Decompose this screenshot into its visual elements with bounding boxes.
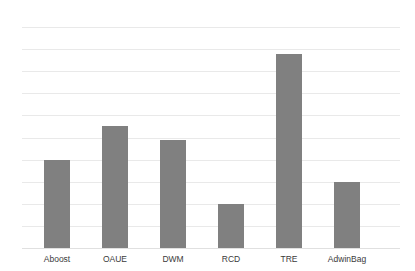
bar-slot	[318, 27, 376, 248]
bar[interactable]	[102, 126, 128, 248]
bar-slot	[144, 27, 202, 248]
bar[interactable]	[44, 160, 70, 248]
bar[interactable]	[160, 140, 186, 248]
bar-slot	[86, 27, 144, 248]
gridline-0	[22, 248, 400, 249]
bar-slot	[202, 27, 260, 248]
bar[interactable]	[276, 54, 302, 248]
bar[interactable]	[334, 182, 360, 248]
bar[interactable]	[218, 204, 244, 248]
bar-chart: 012345678910 AboostOAUEDWMRCDTREAdwinBag	[0, 0, 415, 271]
plot-area	[22, 27, 400, 248]
bar-slot	[260, 27, 318, 248]
bars-group	[22, 27, 400, 248]
bar-slot	[28, 27, 86, 248]
x-tick-label: AdwinBag	[307, 254, 387, 264]
